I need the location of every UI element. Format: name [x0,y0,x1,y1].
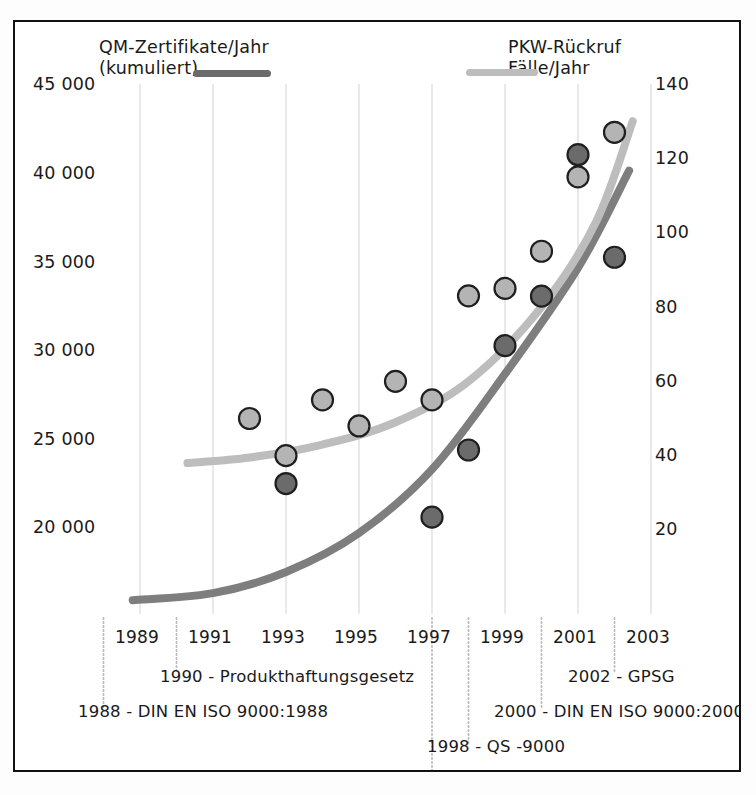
data-point [276,445,297,466]
y-axis-tick-20000: 20 000 [33,517,95,537]
trend-curves [133,121,633,600]
data-point [458,285,479,306]
y2-axis-tick-140: 140 [655,74,689,94]
x-axis-tick-2001: 2001 [553,627,597,647]
y-axis-tick-40000: 40 000 [33,163,95,183]
x-axis-tick-1989: 1989 [115,627,159,647]
annotation-1988: 1988 - DIN EN ISO 9000:1988 [78,702,328,721]
annotation-2002: 2002 - GPSG [568,667,675,686]
data-point [422,507,443,528]
data-point [422,389,443,410]
y-axis-tick-25000: 25 000 [33,429,95,449]
annotation-2000: 2000 - DIN EN ISO 9000:2000 [494,702,741,721]
chart-frame: QM-Zertifikate/Jahr (kumuliert) PKW-Rück… [13,20,741,772]
data-point [495,278,516,299]
data-point [495,335,516,356]
annotation-1997: 1997 - Produktsicherheitsgesetz [387,771,659,772]
legend-right-line1: PKW-Rückruf [508,37,621,58]
data-point [239,408,260,429]
legend-left-swatch [193,70,271,77]
data-point [458,439,479,460]
data-point [312,389,333,410]
y-axis-tick-30000: 30 000 [33,340,95,360]
y2-axis-tick-80: 80 [655,297,678,317]
data-point [568,144,589,165]
annotation-1998: 1998 - QS -9000 [427,737,565,756]
x-axis-tick-1999: 1999 [480,627,524,647]
data-point [276,473,297,494]
data-point [349,415,370,436]
data-point [531,241,552,262]
x-axis-tick-1997: 1997 [407,627,451,647]
y-axis-tick-45000: 45 000 [33,74,95,94]
data-point [604,247,625,268]
data-point [604,122,625,143]
y2-axis-tick-120: 120 [655,148,689,168]
data-point [568,166,589,187]
x-axis-tick-1995: 1995 [334,627,378,647]
y2-axis-tick-40: 40 [655,445,678,465]
y2-axis-tick-60: 60 [655,371,678,391]
y-axis-tick-35000: 35 000 [33,252,95,272]
chart-stage: QM-Zertifikate/Jahr (kumuliert) PKW-Rück… [15,22,739,770]
annotation-1990: 1990 - Produkthaftungsgesetz [160,667,414,686]
trend-curve-0 [133,171,629,601]
data-point [385,371,406,392]
x-axis-tick-2003: 2003 [626,627,670,647]
legend-left-line1: QM-Zertifikate/Jahr [99,37,269,58]
y2-axis-tick-20: 20 [655,519,678,539]
data-point [531,286,552,307]
legend-right-swatch [466,69,538,76]
x-axis-tick-1993: 1993 [261,627,305,647]
x-axis-tick-1991: 1991 [188,627,232,647]
chart-canvas [15,22,741,772]
y2-axis-tick-100: 100 [655,222,689,242]
